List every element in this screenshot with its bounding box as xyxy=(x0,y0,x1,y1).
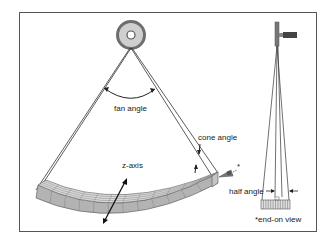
ct-geometry-diagram: fan angle cone angle z-axis * half angle xyxy=(0,0,320,244)
view-marker-asterisk: * xyxy=(237,162,240,171)
end-on-view-label: *end-on view xyxy=(255,215,301,224)
half-angle-label: half angle xyxy=(229,187,264,196)
z-axis-label: z-axis xyxy=(122,161,143,170)
cone-angle-label: cone angle xyxy=(198,133,238,142)
x-ray-source-icon xyxy=(116,20,146,50)
fan-angle-label: fan angle xyxy=(114,104,147,113)
